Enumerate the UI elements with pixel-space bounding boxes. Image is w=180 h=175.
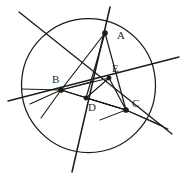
- point-label-a: A: [117, 29, 125, 41]
- line-upper-left-to-C: [19, 12, 172, 134]
- geometry-canvas: ABCDE: [0, 0, 180, 175]
- circumscribed-circle: [22, 19, 156, 153]
- point-c-dot: [123, 107, 128, 112]
- point-e-dot: [107, 76, 111, 80]
- point-d-dot: [84, 96, 88, 100]
- point-label-e: E: [112, 62, 119, 74]
- point-label-d: D: [88, 101, 96, 113]
- point-label-c: C: [132, 97, 139, 109]
- line-E-to-right-edge: [8, 57, 179, 101]
- ray-C-to-lower-left: [100, 110, 126, 120]
- point-b-dot: [58, 87, 63, 92]
- geometry-figure: ABCDE: [0, 0, 180, 175]
- point-label-b: B: [52, 73, 59, 85]
- segments-layer: [8, 7, 179, 172]
- circle-layer: [22, 19, 156, 153]
- point-a-dot: [102, 30, 107, 35]
- cevian-A-to-D: [86, 33, 105, 98]
